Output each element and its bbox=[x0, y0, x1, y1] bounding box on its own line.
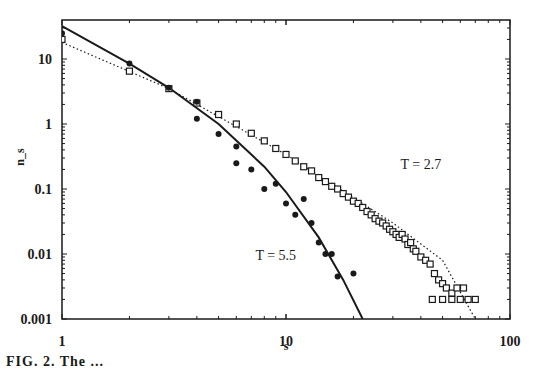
point-t27 bbox=[457, 296, 463, 302]
x-tick-label: 100 bbox=[500, 334, 521, 349]
point-t55 bbox=[166, 85, 172, 91]
point-t27 bbox=[126, 68, 132, 74]
point-t27 bbox=[292, 158, 298, 164]
fit-line-t27 bbox=[62, 42, 475, 319]
point-t27 bbox=[233, 121, 239, 127]
x-axis-label: s bbox=[284, 339, 289, 353]
point-t55 bbox=[194, 116, 200, 122]
point-t27 bbox=[460, 285, 466, 291]
point-t27 bbox=[472, 296, 478, 302]
point-t27 bbox=[431, 271, 437, 277]
point-t55 bbox=[292, 212, 298, 218]
point-t55 bbox=[316, 240, 322, 246]
point-t27 bbox=[429, 296, 435, 302]
point-t27 bbox=[248, 130, 254, 136]
point-t55 bbox=[335, 274, 341, 280]
point-t27 bbox=[322, 179, 328, 185]
point-t27 bbox=[273, 145, 279, 151]
point-t27 bbox=[465, 296, 471, 302]
y-tick-label: 0.001 bbox=[21, 312, 53, 327]
series-annotation: T = 2.7 bbox=[401, 157, 442, 172]
y-tick-label: 1 bbox=[45, 117, 52, 132]
point-t27 bbox=[59, 36, 65, 42]
point-t27 bbox=[261, 138, 267, 144]
point-t55 bbox=[329, 251, 335, 257]
point-t27 bbox=[309, 168, 315, 174]
point-t55 bbox=[322, 251, 328, 257]
figure-caption: FIG. 2. The ... bbox=[6, 354, 104, 370]
point-t27 bbox=[316, 175, 322, 181]
point-t55 bbox=[248, 166, 254, 172]
point-t27 bbox=[440, 296, 446, 302]
y-tick-label: 0.1 bbox=[35, 182, 53, 197]
point-t27 bbox=[329, 183, 335, 189]
y-tick-label: 10 bbox=[38, 52, 52, 67]
point-t27 bbox=[283, 151, 289, 157]
axis-tick-labels: 1101001010.10.010.001 bbox=[21, 52, 521, 349]
series-annotation: T = 5.5 bbox=[255, 248, 296, 263]
point-t55 bbox=[350, 271, 356, 277]
fit-line-t55 bbox=[62, 26, 363, 319]
point-t55 bbox=[194, 99, 200, 105]
point-t27 bbox=[408, 240, 414, 246]
fit-curves bbox=[62, 26, 475, 319]
point-t55 bbox=[233, 160, 239, 166]
point-t55 bbox=[233, 144, 239, 150]
point-t55 bbox=[273, 181, 279, 187]
point-t27 bbox=[454, 285, 460, 291]
y-axis-label: n_s bbox=[13, 148, 27, 166]
point-t55 bbox=[301, 196, 307, 202]
y-tick-label: 0.01 bbox=[28, 247, 53, 262]
point-t55 bbox=[126, 61, 132, 67]
point-t27 bbox=[449, 296, 455, 302]
point-t55 bbox=[283, 200, 289, 206]
point-t27 bbox=[216, 112, 222, 118]
point-t27 bbox=[301, 164, 307, 170]
point-t55 bbox=[59, 30, 65, 36]
chart: 1101001010.10.010.001 s n_s T = 2.7T = 5… bbox=[0, 0, 541, 372]
point-t27 bbox=[427, 261, 433, 267]
point-t55 bbox=[261, 186, 267, 192]
point-t55 bbox=[216, 131, 222, 137]
x-tick-label: 1 bbox=[59, 334, 66, 349]
point-t55 bbox=[309, 220, 315, 226]
